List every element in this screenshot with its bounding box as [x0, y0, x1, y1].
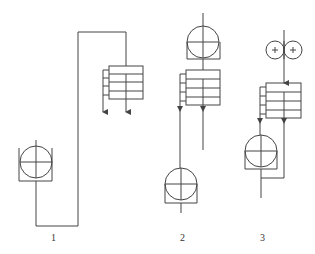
roller-icon	[187, 13, 220, 70]
diagram-canvas: 1	[0, 0, 315, 254]
roller-icon	[19, 140, 52, 181]
unit-label-3: 3	[260, 232, 265, 243]
unit-3: 3	[245, 30, 302, 243]
unit-label-1: 1	[51, 232, 56, 243]
unit-1: 1	[19, 32, 143, 243]
layer-stack	[177, 70, 220, 168]
feed-loop	[36, 32, 126, 226]
twin-roller-icon	[266, 30, 302, 83]
layer-stack	[257, 83, 301, 178]
roller-icon	[165, 168, 197, 213]
roller-icon	[245, 135, 277, 198]
layer-stack	[103, 66, 143, 112]
unit-label-2: 2	[180, 232, 185, 243]
unit-2: 2	[165, 13, 220, 243]
